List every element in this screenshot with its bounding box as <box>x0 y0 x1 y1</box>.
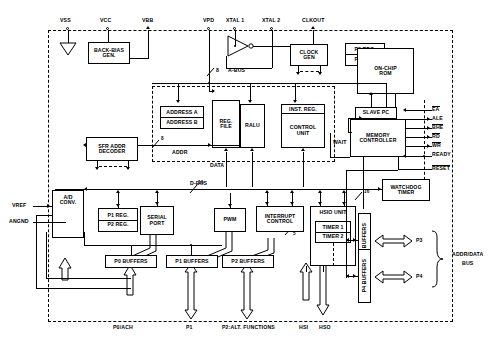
pin-label-p2alt: P2:ALT. FUNCTIONS <box>222 325 275 330</box>
arrow-abus-ralu <box>248 100 252 103</box>
pin-label-hsi: HSI <box>299 325 308 330</box>
arrow-serial-up <box>155 190 159 193</box>
memory-controller-block: MEMORY CONTROLLER <box>350 119 406 157</box>
sfr-line2: DECODER <box>99 149 126 154</box>
pwm-label: PWM <box>224 217 237 222</box>
signal-label-bhe: BHE <box>432 124 443 131</box>
arrow-wait <box>359 116 362 120</box>
p4-buffers-block: P4 BUFFERS <box>358 249 371 303</box>
wire-xtal1 <box>235 30 236 46</box>
inst-reg-control-unit-block: INST. REG. CONTROL UNIT <box>281 104 325 148</box>
ralu-label: RALU <box>245 123 260 128</box>
arrow-data-ralu <box>250 148 254 151</box>
watchdog-timer-block: WATCHDOG TIMER <box>382 179 430 201</box>
signal-wr-text: WR <box>432 142 441 149</box>
port-label-p4: P4 <box>416 274 423 279</box>
arrow-rom-in <box>369 92 373 95</box>
arrow-hsio-dn2 <box>342 202 346 205</box>
p1-buffers-block: P1 BUFFERS <box>166 255 218 268</box>
wire-angnd-v <box>65 222 66 223</box>
signal-label-ready: READY <box>432 152 451 157</box>
wire-xtal-loop-v <box>226 56 227 68</box>
reg-file-line2: FILE <box>220 124 232 129</box>
inst-reg-label: INST. REG. <box>282 105 324 113</box>
a-bus-line <box>152 83 386 84</box>
wire-left-route1 <box>36 215 37 288</box>
sfr-dashed-link <box>99 166 127 167</box>
back-bias-gen-block: BACK-BIAS GEN. <box>88 42 130 64</box>
hsio-unit-label: HSIO UNIT <box>319 210 346 215</box>
address-ab-block: ADDRESS A ADDRESS B <box>160 106 204 129</box>
wire-data-control <box>303 152 304 187</box>
wire-wait-v <box>348 118 349 133</box>
wire-angnd <box>33 222 65 223</box>
d-bus-line <box>55 189 385 190</box>
pin-label-vcc: VCC <box>100 18 111 23</box>
pin-label-vss: VSS <box>60 18 71 23</box>
wire-clkout <box>313 30 314 44</box>
arrow-sfr-out1 <box>95 167 99 170</box>
wire-data-regfile <box>226 152 227 187</box>
arrow-hsio-up2 <box>342 190 346 193</box>
p2-buffers-block: P2 BUFFERS <box>222 255 274 268</box>
arrow-pwm <box>228 204 232 207</box>
interrupt-width-label: 5 <box>293 232 296 237</box>
arrow-hsio-dn <box>318 202 322 205</box>
memory-controller-line2: CONTROLLER <box>359 138 396 143</box>
arrow-p12reg-dn <box>116 204 120 207</box>
arrow-serial-dn <box>155 202 159 205</box>
arrow-ad-dbus <box>84 187 87 191</box>
arrow-vbb <box>146 26 150 29</box>
ad-conv-line2: CONV. <box>60 200 76 205</box>
pin-label-clkout: CLKOUT <box>302 18 325 23</box>
arrow-ale <box>427 117 430 121</box>
timer2-label: TIMER 2 <box>316 232 350 241</box>
wire-memctl-left <box>330 133 331 157</box>
address-b-label: ADDRESS B <box>161 117 203 126</box>
addr-data-bus-label-line2: BUS <box>462 261 473 266</box>
watchdog-line2: TIMER <box>398 190 415 195</box>
interrupt-control-block: INTERRUPT CONTROL <box>256 206 304 232</box>
signal-label-rd: RD <box>432 133 440 140</box>
wire-ready <box>406 156 432 157</box>
arrow-ea <box>403 108 406 112</box>
pin-label-vbb: VBB <box>142 18 153 23</box>
clockgen-dashed-link <box>300 71 319 72</box>
pin-label-hso: HSO <box>319 325 331 330</box>
arrow-hsio-up <box>318 190 322 193</box>
wire-memctl-left-h <box>330 157 350 158</box>
block-diagram-canvas: VSS VCC VBB BACK-BIAS GEN. VPD XTAL 1 XT… <box>0 0 501 350</box>
arrow-addr-regfile <box>208 143 211 147</box>
arrow-ready <box>403 154 406 158</box>
wire-left-route1-h <box>36 288 131 289</box>
signal-bhe-text: BHE <box>432 124 443 131</box>
clock-gen-block: CLOCK GEN <box>290 44 328 66</box>
clock-gen-line2: GEN <box>303 55 315 60</box>
arrow-abus-inst <box>293 100 297 103</box>
pin-label-xtal2: XTAL 2 <box>262 18 280 23</box>
serial-port-line2: PORT <box>150 221 165 226</box>
wire-xtal2 <box>272 30 273 68</box>
wire-p12-down <box>84 232 85 245</box>
reg-file-block: REG. FILE <box>212 100 240 148</box>
arrow-p12reg-up <box>116 190 120 193</box>
wire-hsio-hso <box>323 266 324 272</box>
slave-pc-label: SLAVE PC <box>363 110 389 115</box>
a-bus-label: A-BUS <box>228 68 245 73</box>
back-bias-gen-line2: GEN. <box>102 53 115 58</box>
mem-bus-width-label: 16 <box>364 190 369 195</box>
wire-vss <box>68 30 69 43</box>
arrow-wr <box>427 144 430 148</box>
wire-reset-v <box>398 157 399 169</box>
wire-left-route2-h <box>46 278 131 279</box>
pin-label-p1: P1 <box>186 325 193 330</box>
arrow-dbus-watchdog <box>378 187 381 191</box>
hsio-internal-dashed <box>333 243 334 266</box>
wire-memctl-to-spine <box>346 170 398 171</box>
signal-reset-text: RESET <box>432 165 450 172</box>
wire-xtal-out <box>253 46 290 47</box>
control-unit-line2: UNIT <box>297 131 310 136</box>
pin-label-p0ach: P0/ACH <box>113 325 133 330</box>
wire-hsio-hsi <box>306 266 307 272</box>
pin-label-vref: VREF <box>12 203 26 208</box>
